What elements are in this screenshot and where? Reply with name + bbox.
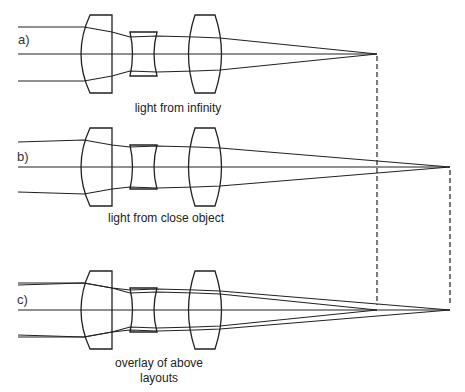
- panel-b: [18, 128, 450, 206]
- panel-c: [18, 271, 450, 349]
- panel-c-caption-line2: layouts: [79, 371, 239, 386]
- panel-c-label: c): [17, 292, 28, 307]
- lens-diagram: [0, 0, 465, 392]
- panel-c-caption: overlay of above layouts: [79, 356, 239, 386]
- panel-b-label: b): [17, 149, 29, 164]
- panel-a-caption: light from infinity: [98, 101, 258, 116]
- panel-c-caption-line1: overlay of above: [79, 356, 239, 371]
- focus-guides: [377, 56, 450, 305]
- panel-a: [18, 15, 377, 93]
- panel-a-label: a): [18, 32, 30, 47]
- panel-b-caption: light from close object: [86, 211, 246, 226]
